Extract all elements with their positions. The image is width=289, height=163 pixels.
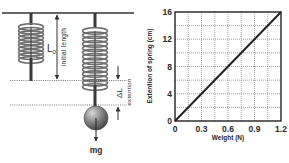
x-tick-label: 0.3 <box>196 124 208 134</box>
initial-length-symbol: L0 <box>47 43 57 55</box>
x-axis-label: Weight (N) <box>212 134 244 142</box>
extension-chart: 00.30.60.91.2 0481216 Weight (N) Extenti… <box>146 7 287 142</box>
y-tick-label: 16 <box>163 7 173 17</box>
extension-symbol: ΔL <box>115 88 124 98</box>
spring-coils <box>83 28 108 90</box>
figure: L0 initial length mg ΔL extention 00.30.… <box>0 0 289 163</box>
y-tick-labels: 0481216 <box>163 7 173 126</box>
x-tick-label: 0 <box>173 124 178 134</box>
spring-diagram: L0 initial length mg ΔL extention <box>2 13 134 155</box>
top-rod <box>94 13 97 28</box>
initial-length-label: initial length <box>60 28 68 67</box>
bottom-rod <box>30 58 33 81</box>
x-tick-label: 0.6 <box>222 124 234 134</box>
unstretched-spring <box>19 13 44 81</box>
x-tick-label: 1.2 <box>275 124 287 134</box>
y-tick-label: 12 <box>163 34 173 44</box>
y-tick-label: 8 <box>167 62 172 72</box>
x-tick-label: 0.9 <box>249 124 261 134</box>
spring-coils <box>19 24 44 63</box>
x-tick-labels: 00.30.60.91.2 <box>173 124 288 134</box>
extension-label: extention <box>126 78 132 105</box>
stretched-spring: mg <box>83 13 109 155</box>
y-axis-label: Extention of spring (cm) <box>146 29 154 104</box>
figure-svg: L0 initial length mg ΔL extention 00.30.… <box>0 0 289 163</box>
y-tick-label: 4 <box>167 89 172 99</box>
force-label: mg <box>90 145 103 155</box>
y-tick-label: 0 <box>167 116 172 126</box>
